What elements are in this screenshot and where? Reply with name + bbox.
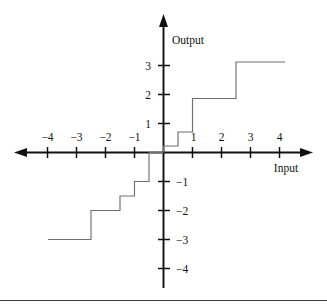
x-axis-left-arrow-icon (14, 148, 27, 157)
x-tick-label--3: −3 (70, 131, 82, 143)
quantizer-chart: −4 −3 −2 −1 1 2 3 4 3 2 1 −1 −2 −3 −4 Ou… (0, 0, 327, 308)
x-tick-label--4: −4 (41, 131, 53, 143)
x-axis-right-arrow-icon (300, 148, 313, 157)
x-tick-label--1: −1 (128, 131, 140, 143)
y-tick-label-3: 3 (145, 60, 151, 72)
x-tick-label-2: 2 (219, 131, 225, 143)
y-tick-label--3: −3 (176, 234, 188, 246)
figure-root: −4 −3 −2 −1 1 2 3 4 3 2 1 −1 −2 −3 −4 Ou… (0, 0, 327, 308)
step-path-negative (48, 153, 149, 240)
x-tick-label-3: 3 (248, 131, 254, 143)
y-tick-label-2: 2 (145, 89, 151, 101)
y-tick-label--2: −2 (176, 205, 188, 217)
x-axis-title: Input (274, 162, 299, 175)
y-tick-label--1: −1 (176, 176, 188, 188)
y-axis-up-arrow-icon (159, 14, 168, 27)
y-axis-tick-labels: 3 2 1 −1 −2 −3 −4 (145, 60, 188, 275)
x-tick-label--2: −2 (99, 131, 111, 143)
y-axis-title: Output (172, 34, 205, 47)
y-tick-label-1: 1 (145, 118, 151, 130)
x-tick-label-1: 1 (191, 131, 197, 143)
footer-divider (0, 300, 327, 301)
step-function-curve (48, 62, 285, 240)
y-tick-label--4: −4 (176, 263, 188, 275)
x-tick-label-4: 4 (277, 131, 283, 143)
x-axis-tick-labels: −4 −3 −2 −1 1 2 3 4 (41, 131, 282, 143)
